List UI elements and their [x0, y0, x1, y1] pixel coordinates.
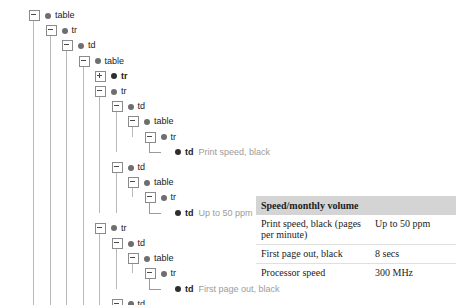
tree-node-tr[interactable]: tr — [145, 266, 177, 281]
spec-table-row: Print speed, black (pages per minute)Up … — [256, 215, 456, 245]
tree-guide-line — [116, 111, 117, 152]
tree-node-tag: tr — [121, 84, 127, 99]
tree-node-td[interactable]: td — [112, 99, 146, 114]
tree-node-table[interactable]: table — [128, 251, 174, 266]
tree-node-table[interactable]: table — [79, 54, 125, 69]
tree-node-bullet-icon — [175, 149, 181, 155]
collapse-node-icon[interactable] — [145, 268, 156, 279]
tree-node-bullet-icon — [128, 301, 134, 305]
tree-node-bullet-icon — [111, 89, 117, 95]
tree-node-td[interactable]: td — [112, 297, 146, 305]
tree-guide-line — [83, 66, 84, 305]
spec-row-label: Print speed, black (pages per minute) — [256, 215, 370, 245]
tree-node-bullet-icon — [144, 256, 150, 262]
collapse-node-icon[interactable] — [46, 25, 57, 36]
tree-node-tr[interactable]: tr — [46, 23, 78, 38]
tree-node-bullet-icon — [95, 58, 101, 64]
tree-node-bullet-icon — [144, 180, 150, 186]
tree-node-bullet-icon — [62, 28, 68, 34]
collapse-node-icon[interactable] — [29, 10, 40, 21]
collapse-node-icon[interactable] — [112, 299, 123, 305]
tree-node-bullet-icon — [78, 43, 84, 49]
tree-node-tr[interactable]: tr — [145, 190, 177, 205]
tree-node-tag: tr — [72, 23, 78, 38]
collapse-node-icon[interactable] — [128, 253, 139, 264]
spec-row-value: Up to 50 ppm — [370, 215, 456, 245]
tree-node-tag: table — [105, 54, 125, 69]
collapse-node-icon[interactable] — [95, 223, 106, 234]
collapse-node-icon[interactable] — [128, 116, 139, 127]
tree-guide-line — [116, 248, 117, 289]
tree-guide-line — [116, 172, 117, 213]
spec-row-value: 8 secs — [370, 245, 456, 264]
tree-node-text: Up to 50 ppm — [199, 206, 253, 221]
tree-node-tr[interactable]: tr — [95, 221, 127, 236]
spec-row-value: 300 MHz — [370, 264, 456, 283]
tree-node-bullet-icon — [111, 73, 117, 79]
tree-node-spacer — [161, 285, 170, 294]
tree-node-td[interactable]: tdUp to 50 ppm — [161, 206, 253, 221]
tree-node-tag: td — [185, 206, 194, 221]
collapse-node-icon[interactable] — [145, 192, 156, 203]
tree-node-tag: tr — [171, 190, 177, 205]
tree-node-table[interactable]: table — [29, 8, 75, 23]
tree-node-bullet-icon — [161, 271, 167, 277]
collapse-node-icon[interactable] — [112, 162, 123, 173]
tree-node-text: Print speed, black — [199, 145, 271, 160]
tree-node-bullet-icon — [111, 225, 117, 231]
spec-table-head: Speed/monthly volume — [256, 196, 456, 215]
tree-node-td[interactable]: td — [62, 38, 96, 53]
tree-node-table[interactable]: table — [128, 175, 174, 190]
tree-node-tag: table — [55, 8, 75, 23]
spec-table-header-cell: Speed/monthly volume — [256, 196, 456, 215]
tree-node-bullet-icon — [144, 119, 150, 125]
tree-node-tag: tr — [171, 130, 177, 145]
tree-node-tag: tr — [121, 69, 128, 84]
tree-node-bullet-icon — [128, 104, 134, 110]
collapse-node-icon[interactable] — [145, 132, 156, 143]
tree-node-bullet-icon — [175, 210, 181, 216]
collapse-node-icon[interactable] — [79, 56, 90, 67]
collapse-node-icon[interactable] — [95, 86, 106, 97]
tree-node-td[interactable]: tdFirst page out, black — [161, 282, 280, 297]
collapse-node-icon[interactable] — [128, 177, 139, 188]
spec-table-header-row: Speed/monthly volume — [256, 196, 456, 215]
spec-table-row: Processor speed300 MHz — [256, 264, 456, 283]
tree-node-td[interactable]: td — [112, 236, 146, 251]
collapse-node-icon[interactable] — [112, 238, 123, 249]
collapse-node-icon[interactable] — [112, 101, 123, 112]
tree-guide-line — [66, 50, 67, 305]
tree-node-tag: td — [138, 236, 146, 251]
tree-node-tag: td — [138, 297, 146, 305]
spec-table-row: First page out, black8 secs — [256, 245, 456, 264]
tree-node-tag: tr — [171, 266, 177, 281]
spec-table-body: Print speed, black (pages per minute)Up … — [256, 215, 456, 282]
tree-node-tag: tr — [121, 221, 127, 236]
tree-node-tag: td — [138, 160, 146, 175]
tree-node-tag: table — [154, 251, 174, 266]
tree-node-text: First page out, black — [199, 282, 280, 297]
tree-guide-line — [99, 96, 100, 213]
dom-tree-panel: tabletrtdtabletrtrtdtabletrtdPrint speed… — [0, 0, 250, 305]
tree-node-tag: td — [138, 99, 146, 114]
tree-node-bullet-icon — [161, 134, 167, 140]
tree-guide-line — [99, 233, 100, 305]
tree-node-bullet-icon — [161, 195, 167, 201]
tree-node-tag: td — [185, 282, 194, 297]
tree-node-spacer — [161, 148, 170, 157]
tree-node-td[interactable]: td — [112, 160, 146, 175]
tree-node-td[interactable]: tdPrint speed, black — [161, 145, 270, 160]
collapse-node-icon[interactable] — [62, 40, 73, 51]
tree-node-tag: table — [154, 175, 174, 190]
tree-node-tr[interactable]: tr — [95, 84, 127, 99]
tree-node-bullet-icon — [175, 286, 181, 292]
expand-node-icon[interactable] — [95, 71, 106, 82]
spec-row-label: First page out, black — [256, 245, 370, 264]
spec-table: Speed/monthly volume Print speed, black … — [256, 196, 456, 282]
tree-guide-line — [33, 20, 34, 305]
tree-node-tag: td — [185, 145, 194, 160]
tree-node-table[interactable]: table — [128, 114, 174, 129]
tree-node-bullet-icon — [45, 13, 51, 19]
tree-node-tr[interactable]: tr — [145, 130, 177, 145]
tree-node-tr[interactable]: tr — [95, 69, 128, 84]
